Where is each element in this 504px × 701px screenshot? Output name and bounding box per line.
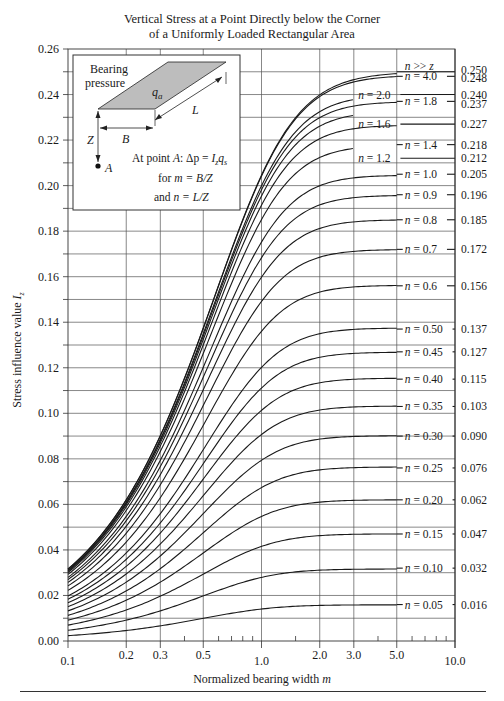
svg-text:n = 0.8: n = 0.8 [405,214,438,226]
svg-text:n = 0.15: n = 0.15 [405,528,443,540]
y-tick-label: 0.20 [38,179,59,193]
curve-label: n = 1.0 [397,168,455,180]
x-tick-label: 0.3 [153,648,168,662]
n-definition: and n = L/Z [154,191,209,203]
curve-label: n = 1.6 [358,118,455,130]
right-axis-value: 0.016 [461,599,487,611]
point-A-marker [95,163,100,168]
curve-label: n = 0.15 [397,528,455,540]
curve-label: n = 0.9 [397,189,455,201]
x-tick-label: 10.0 [445,654,466,668]
y-tick-label: 0.04 [38,543,59,557]
curve-label: n = 0.20 [397,494,455,506]
svg-text:n = 0.20: n = 0.20 [405,494,443,506]
right-axis-value: 0.248 [461,72,487,84]
right-axis-value: 0.137 [461,323,487,335]
svg-text:n = 1.6: n = 1.6 [358,118,391,130]
right-axis-value: 0.205 [461,168,487,180]
svg-text:n = 0.05: n = 0.05 [405,599,443,611]
bearing-label-2: pressure [85,76,125,90]
right-axis-value: 0.076 [461,462,487,474]
x-tick-label: 2.0 [312,648,327,662]
right-axis-value: 0.237 [461,98,487,110]
y-tick-label: 0.18 [38,224,59,238]
svg-text:n = 1.2: n = 1.2 [358,152,391,164]
curve-n0p25 [68,467,397,615]
curve-labels: n >> z0.250n = 4.00.248n = 2.00.240n = 1… [358,60,487,611]
svg-text:n = 1.4: n = 1.4 [405,139,438,151]
x-tick-label: 0.2 [119,648,134,662]
y-tick-label: 0.14 [38,315,59,329]
x-tick-label: 0.1 [61,654,76,668]
right-axis-value: 0.115 [461,373,487,385]
curve-label: n = 0.10 [397,562,455,574]
curve-label: n = 0.6 [397,280,455,292]
svg-text:n = 2.0: n = 2.0 [358,89,391,101]
right-axis-value: 0.218 [461,139,487,151]
right-axis-value: 0.127 [461,346,487,358]
curve-n0p10 [68,569,397,630]
x-axis-label: Normalized bearing width m [0,672,504,687]
curve-n0p15 [68,534,397,625]
right-axis-value: 0.156 [461,280,487,292]
x-tick-label: 3.0 [346,648,361,662]
right-axis-value: 0.103 [461,400,487,412]
curve-n0p6 [68,286,397,591]
right-axis-value: 0.090 [461,430,487,442]
curve-label: n = 1.2 [358,152,455,164]
y-tick-label: 0.22 [38,133,59,147]
x-tick-label: 5.0 [389,648,404,662]
svg-text:n = 4.0: n = 4.0 [405,70,438,82]
svg-text:n = 0.40: n = 0.40 [405,373,443,385]
right-axis-value: 0.047 [461,528,487,540]
dim-L-label: L [191,103,199,117]
right-axis-value: 0.212 [461,152,487,164]
svg-text:n = 0.50: n = 0.50 [405,323,443,335]
svg-text:n = 0.9: n = 0.9 [405,189,438,201]
m-definition: for m = B/Z [158,172,213,184]
x-tick-label: 1.0 [254,654,269,668]
curve-label: n = 0.25 [397,462,455,474]
right-axis-value: 0.185 [461,214,487,226]
svg-text:n = 0.6: n = 0.6 [405,280,438,292]
svg-text:n = 1.0: n = 1.0 [405,168,438,180]
point-A-label: A [104,161,113,175]
curve-label: n = 0.05 [397,599,455,611]
dim-B-label: B [122,132,130,146]
right-axis-value: 0.032 [461,562,487,574]
y-tick-label: 0.08 [38,452,59,466]
y-tick-label: 0.02 [38,588,59,602]
svg-text:n = 1.8: n = 1.8 [405,95,438,107]
y-tick-label: 0.26 [38,42,59,56]
curve-n0p45 [68,352,397,599]
curve-label: n = 0.7 [397,243,455,255]
y-tick-label: 0.06 [38,497,59,511]
bottom-rule [20,691,486,692]
right-axis-value: 0.196 [461,189,487,201]
bearing-label-1: Bearing [90,62,128,76]
svg-text:n = 0.30: n = 0.30 [405,430,443,442]
curve-label: n = 0.35 [397,400,455,412]
inset-diagram: Bearing pressure qa L B Z A At point A: … [73,55,240,210]
curve-label: n = 0.8 [397,214,455,226]
y-tick-label: 0.16 [38,270,59,284]
right-axis-value: 0.227 [461,118,487,130]
curve-label: n = 1.8 [397,95,455,107]
svg-text:n = 0.10: n = 0.10 [405,562,443,574]
curve-label: n = 0.50 [397,323,455,335]
curve-n0p9 [68,196,397,580]
curve-label: n = 0.40 [397,373,455,385]
y-tick-label: 0.10 [38,406,59,420]
y-tick-label: 0.00 [38,634,59,648]
svg-text:n = 0.45: n = 0.45 [405,346,443,358]
y-axis-label: Stress influence value Iz [10,292,26,407]
curve-n0p05 [68,605,397,636]
svg-text:n = 0.25: n = 0.25 [405,462,443,474]
svg-text:n = 0.35: n = 0.35 [405,400,443,412]
right-axis-value: 0.172 [461,243,487,255]
x-tick-label: 0.5 [196,648,211,662]
plot-area: n >> z0.250n = 4.00.248n = 2.00.240n = 1… [0,0,504,701]
svg-text:n = 0.7: n = 0.7 [405,243,438,255]
dim-Z-label: Z [87,133,94,147]
right-axis-value: 0.062 [461,494,487,506]
